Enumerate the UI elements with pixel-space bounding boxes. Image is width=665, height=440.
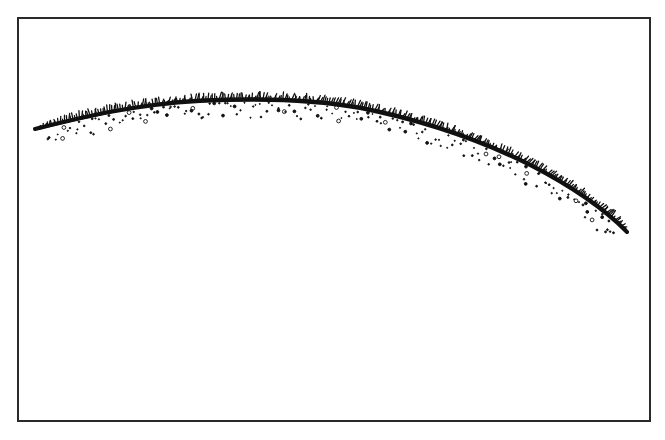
ground-line — [35, 98, 627, 232]
pebbles — [47, 102, 614, 234]
grassy-hill-illustration — [0, 0, 665, 440]
